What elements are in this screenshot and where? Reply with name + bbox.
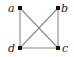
vertex-label-b: b (61, 2, 68, 15)
vertex-c (56, 46, 60, 50)
graph-diagram: abcd (0, 0, 74, 57)
edges (20, 8, 58, 48)
vertex-a (18, 6, 22, 10)
vertex-d (18, 46, 22, 50)
vertex-label-a: a (8, 2, 15, 15)
vertex-label-d: d (8, 42, 15, 55)
vertex-b (56, 6, 60, 10)
vertex-label-c: c (62, 42, 68, 55)
